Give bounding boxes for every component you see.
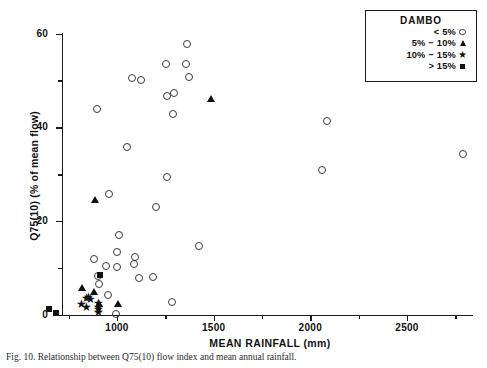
x-minor-tick (359, 315, 360, 319)
legend-marker-filled-star-icon: ★ (456, 51, 469, 59)
data-point (169, 110, 177, 118)
data-point (318, 166, 326, 174)
data-point (104, 291, 112, 299)
data-point (162, 60, 170, 68)
x-minor-tick (262, 315, 263, 319)
data-point (112, 310, 120, 318)
y-minor-tick (58, 268, 62, 269)
data-point (182, 60, 190, 68)
x-minor-tick (165, 315, 166, 319)
legend-marker-open-circle-icon (456, 29, 469, 36)
data-point (323, 117, 331, 125)
legend-entry-label: < 5% (434, 27, 456, 37)
data-point (183, 40, 191, 48)
data-point (185, 73, 193, 81)
data-point (163, 173, 171, 181)
x-tick-label-1500: 1500 (184, 322, 244, 333)
data-point (93, 105, 101, 113)
data-point (170, 89, 178, 97)
legend-marker-filled-triangle-icon (456, 40, 469, 46)
data-point (114, 300, 122, 307)
data-point (135, 274, 143, 282)
data-point: ★ (81, 302, 91, 312)
legend-title: DAMBO (366, 15, 476, 26)
data-point (207, 95, 215, 102)
x-tick-1500 (214, 315, 215, 321)
data-point (152, 203, 160, 211)
filled-triangle-icon (460, 40, 466, 46)
data-point (115, 231, 123, 239)
data-point (459, 150, 467, 158)
data-point: ★ (93, 307, 103, 317)
x-tick-label-2000: 2000 (280, 322, 340, 333)
x-minor-tick (455, 315, 456, 319)
data-point (113, 248, 121, 256)
legend-marker-filled-square-icon (456, 64, 469, 69)
data-point (128, 74, 136, 82)
legend-entry-3: > 15% (366, 61, 476, 73)
filled-square-icon (460, 64, 465, 69)
data-point (149, 273, 157, 281)
data-point (91, 196, 99, 203)
data-point (46, 306, 52, 312)
data-point (95, 280, 103, 288)
open-circle-icon (459, 29, 466, 36)
x-tick-label-1000: 1000 (87, 322, 147, 333)
x-minor-tick (69, 315, 70, 319)
legend-entry-2: 10% − 15%★ (366, 49, 476, 61)
data-point (137, 76, 145, 84)
y-tick-40 (56, 127, 62, 128)
x-axis-title: MEAN RAINFALL (mm) (130, 337, 410, 349)
data-point (53, 310, 59, 316)
x-tick-2500 (407, 315, 408, 321)
data-point (105, 190, 113, 198)
y-minor-tick (58, 174, 62, 175)
legend-entry-label: 10% − 15% (406, 50, 456, 60)
x-tick-label-2500: 2500 (377, 322, 437, 333)
legend-entry-label: 5% − 10% (412, 38, 456, 48)
legend-box: DAMBO < 5%5% − 10%10% − 15%★> 15% (365, 10, 477, 82)
y-tick-20 (56, 221, 62, 222)
legend-entry-0: < 5% (366, 26, 476, 38)
y-axis-title: Q75(10) (% of mean flow) (28, 56, 40, 296)
data-point (97, 272, 103, 278)
y-tick-60 (56, 34, 62, 35)
y-tick-label-60: 60 (22, 28, 48, 39)
data-point (90, 255, 98, 263)
y-minor-tick (58, 80, 62, 81)
y-tick-label-0: 0 (22, 309, 48, 320)
figure-scatter-plot: 02040601000150020002500 ★★★★★★★★★ Q75(10… (0, 0, 487, 368)
legend-entry-label: > 15% (428, 61, 456, 71)
data-point (113, 263, 121, 271)
data-point (195, 242, 203, 250)
y-axis-line (62, 33, 63, 316)
legend-entries: < 5%5% − 10%10% − 15%★> 15% (366, 26, 476, 72)
data-point (168, 298, 176, 306)
x-axis-line (62, 315, 473, 316)
data-point (102, 262, 110, 270)
x-tick-2000 (310, 315, 311, 321)
legend-entry-1: 5% − 10% (366, 38, 476, 50)
data-point (130, 260, 138, 268)
data-point (123, 143, 131, 151)
filled-star-icon: ★ (458, 51, 467, 59)
figure-caption: Fig. 10. Relationship between Q75(10) fl… (6, 352, 476, 362)
